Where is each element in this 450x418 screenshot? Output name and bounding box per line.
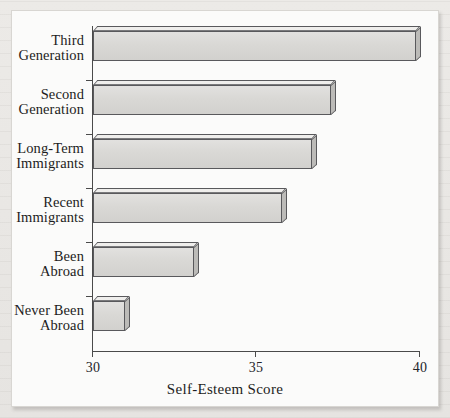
bar-been-abroad: [93, 247, 194, 277]
y-axis-tick: [86, 134, 92, 135]
category-label-long-term-immigrants: Long-Term Immigrants: [16, 141, 84, 171]
x-axis-tick-label-30: 30: [86, 360, 100, 376]
x-axis-tick-30: [92, 351, 93, 357]
y-axis-tick: [86, 242, 92, 243]
x-axis-tick-35: [255, 351, 256, 357]
bar-side-face-been-abroad: [194, 242, 199, 277]
category-label-third-generation: Third Generation: [19, 33, 84, 63]
plot-area: Third Generation Second Generation Long-…: [12, 11, 438, 406]
bar-third-generation: [93, 31, 416, 61]
figure-panel: Third Generation Second Generation Long-…: [11, 10, 439, 407]
x-axis-tick-label-40: 40: [413, 360, 427, 376]
y-axis-tick: [86, 80, 92, 81]
bar-long-term-immigrants: [93, 139, 312, 169]
bar-never-been-abroad: [93, 301, 125, 331]
x-axis-title: Self-Esteem Score: [12, 381, 438, 398]
bar-second-generation: [93, 85, 331, 115]
category-label-recent-immigrants: Recent Immigrants: [16, 195, 84, 225]
bar-side-face-third-generation: [416, 26, 421, 61]
y-axis-tick: [86, 296, 92, 297]
bar-side-face-second-generation: [331, 80, 336, 115]
bar-side-face-long-term-immigrants: [312, 134, 317, 169]
bar-side-face-recent-immigrants: [282, 188, 287, 223]
bar-recent-immigrants: [93, 193, 282, 223]
x-axis-tick-40: [419, 351, 420, 357]
category-label-second-generation: Second Generation: [19, 87, 84, 117]
category-label-been-abroad: Been Abroad: [40, 249, 84, 279]
category-label-never-been-abroad: Never Been Abroad: [14, 303, 84, 333]
bar-side-face-never-been-abroad: [125, 296, 130, 331]
y-axis-tick: [86, 188, 92, 189]
x-axis-tick-label-35: 35: [249, 360, 263, 376]
